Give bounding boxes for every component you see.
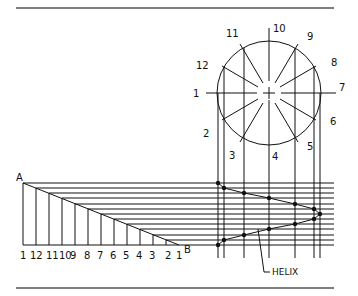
svg-text:12: 12 [196, 60, 209, 71]
svg-text:5: 5 [307, 141, 313, 152]
svg-text:6: 6 [110, 250, 116, 261]
baseline-labels: 1 12 11 10 9 8 7 6 5 4 3 2 1 [20, 250, 182, 261]
svg-text:9: 9 [70, 250, 76, 261]
svg-text:10: 10 [273, 23, 286, 34]
svg-text:3: 3 [229, 150, 235, 161]
svg-text:1: 1 [193, 88, 199, 99]
label-a: A [16, 172, 23, 183]
label-b: B [184, 244, 191, 255]
svg-text:4: 4 [136, 250, 142, 261]
svg-text:1: 1 [176, 250, 182, 261]
svg-text:11: 11 [46, 250, 59, 261]
svg-text:7: 7 [97, 250, 103, 261]
svg-text:3: 3 [149, 250, 155, 261]
svg-text:8: 8 [84, 250, 90, 261]
helix-label: HELIX [272, 267, 298, 277]
svg-text:2: 2 [165, 250, 171, 261]
svg-text:5: 5 [123, 250, 129, 261]
svg-text:9: 9 [307, 31, 313, 42]
svg-text:4: 4 [272, 151, 278, 162]
svg-text:8: 8 [331, 57, 337, 68]
svg-text:1: 1 [20, 250, 26, 261]
svg-text:6: 6 [330, 116, 336, 127]
stretchout-triangle [23, 183, 334, 245]
svg-text:2: 2 [203, 128, 209, 139]
svg-text:11: 11 [226, 28, 239, 39]
svg-text:7: 7 [339, 82, 345, 93]
circle-view [206, 28, 336, 145]
helix-diagram: A B HELIX 1 2 3 4 5 6 7 8 9 10 11 12 1 1… [0, 0, 358, 296]
svg-text:12: 12 [30, 250, 43, 261]
